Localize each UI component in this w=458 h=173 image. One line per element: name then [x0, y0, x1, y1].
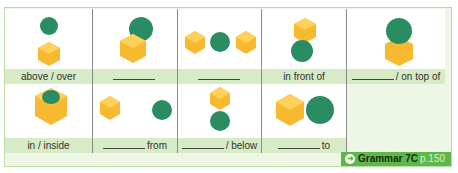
label — [93, 69, 177, 84]
sphere-between-cubes-icon — [178, 9, 262, 69]
cell-blank-behind — [93, 9, 178, 84]
cell-below: / below — [178, 84, 262, 153]
sphere-below-cube-icon — [178, 84, 262, 138]
label: in / inside — [5, 138, 92, 153]
sphere-inside-cube-icon — [5, 84, 93, 138]
illustration — [93, 9, 177, 69]
illustration — [262, 9, 346, 69]
cell-blank-between — [178, 9, 262, 84]
cell-next-to: to — [262, 84, 347, 153]
cube-away-from-sphere-icon — [93, 84, 178, 138]
label: to — [262, 138, 346, 153]
sphere-in-front-of-cube-icon — [262, 9, 347, 69]
label: / below — [178, 138, 261, 153]
illustration — [347, 9, 445, 69]
label: in front of — [262, 69, 346, 84]
cube-in-front-of-sphere-icon — [93, 9, 178, 69]
label — [178, 69, 261, 84]
grammar-ref: Grammar 7C — [358, 153, 418, 164]
arrow-circle-right-icon: ➜ — [345, 154, 355, 164]
illustration — [262, 84, 346, 138]
illustration — [178, 84, 261, 138]
cell-in-front-of: in front of — [262, 9, 347, 84]
illustration — [5, 84, 92, 138]
cell-on-top-of: / on top of — [347, 9, 445, 84]
grammar-reference-link[interactable]: ➜Grammar 7Cp.150 — [341, 152, 451, 166]
cube-next-to-sphere-icon — [262, 84, 347, 138]
label: above / over — [5, 69, 92, 84]
sphere-above-cube-icon — [5, 9, 93, 69]
cell-in-inside: in / inside — [5, 84, 93, 153]
cell-from: from — [93, 84, 178, 153]
sphere-on-cube-icon — [347, 9, 445, 69]
label: / on top of — [347, 69, 445, 84]
cell-above-over: above / over — [5, 9, 93, 84]
illustration — [5, 9, 92, 69]
illustration — [178, 9, 261, 69]
label: from — [93, 138, 177, 153]
answer-blank[interactable] — [278, 139, 320, 149]
answer-blank[interactable] — [103, 139, 145, 149]
answer-blank[interactable] — [198, 70, 240, 80]
page-ref: p.150 — [420, 153, 445, 164]
answer-blank[interactable] — [352, 70, 394, 80]
answer-blank[interactable] — [113, 70, 155, 80]
illustration — [93, 84, 177, 138]
answer-blank[interactable] — [182, 139, 224, 149]
